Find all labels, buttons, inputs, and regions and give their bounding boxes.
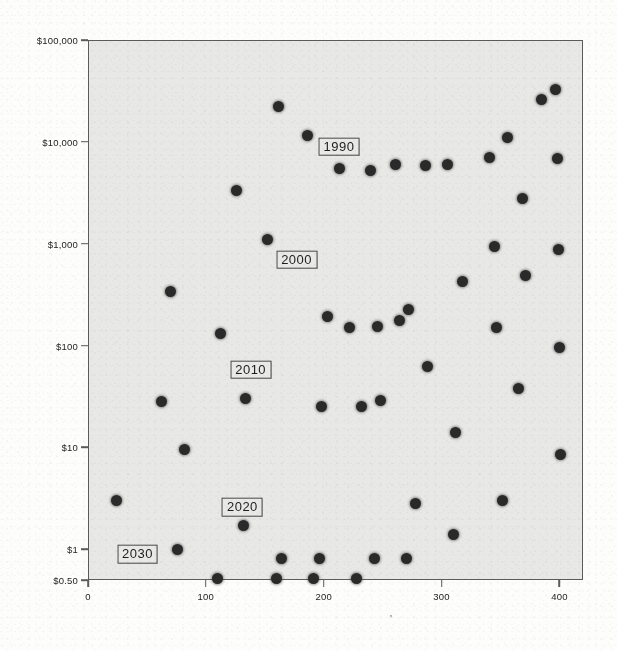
y-axis-tick-label: $0.50: [53, 575, 78, 586]
scatter-point: [457, 276, 468, 287]
y-axis-tick-label: $1,000: [48, 238, 78, 249]
x-axis-tick-label: 100: [198, 591, 214, 602]
y-axis-tick-label: $10,000: [42, 136, 78, 147]
scatter-point: [334, 163, 345, 174]
y-axis-tick-label: $10: [62, 442, 78, 453]
y-axis-tick-label: $100,000: [37, 35, 78, 46]
scatter-point: [262, 234, 273, 245]
plot-area: [88, 40, 583, 580]
x-axis-tick-label: 0: [85, 591, 90, 602]
x-axis-tick-mark: [323, 580, 325, 587]
scatter-point: [513, 383, 524, 394]
scatter-point: [322, 311, 333, 322]
scatter-point: [156, 396, 167, 407]
x-axis-tick-mark: [559, 580, 561, 587]
x-axis-tick-label: 200: [315, 591, 331, 602]
x-axis-tick-mark: [205, 580, 207, 587]
scatter-point: [442, 159, 453, 170]
y-axis-tick-mark: [81, 243, 88, 245]
scatter-point: [308, 573, 319, 584]
x-axis-tick-label: 300: [433, 591, 449, 602]
y-axis-tick-mark: [81, 447, 88, 449]
scatter-point: [520, 270, 531, 281]
scatter-point: [314, 553, 325, 564]
scatter-point: [552, 153, 563, 164]
scatter-point: [401, 553, 412, 564]
scatter-point: [394, 315, 405, 326]
scatter-point: [448, 529, 459, 540]
era-annotation-2000: 2000: [276, 250, 317, 269]
scatter-point: [276, 553, 287, 564]
scatter-point: [165, 286, 176, 297]
x-axis-tick-mark: [87, 580, 89, 587]
scatter-point: [172, 544, 183, 555]
y-axis-tick-mark: [81, 345, 88, 347]
x-axis-tick-label: 400: [551, 591, 567, 602]
y-axis-tick-label: $1: [67, 544, 78, 555]
y-axis-tick-mark: [81, 549, 88, 551]
scatter-point: [271, 573, 282, 584]
scatter-point: [420, 160, 431, 171]
scatter-point: [369, 553, 380, 564]
era-annotation-2020: 2020: [222, 498, 263, 517]
scatter-point: [111, 495, 122, 506]
scatter-point: [212, 573, 223, 584]
stray-ink-mark: ': [390, 612, 392, 624]
scatter-point: [553, 244, 564, 255]
scatter-figure: of a number ofthe price of acomputing an…: [0, 0, 617, 650]
era-annotation-2010: 2010: [230, 360, 271, 379]
scatter-point: [489, 241, 500, 252]
era-annotation-1990: 1990: [319, 137, 360, 156]
scatter-point: [302, 130, 313, 141]
scatter-point: [375, 395, 386, 406]
y-axis-tick-mark: [81, 141, 88, 143]
scatter-point: [351, 573, 362, 584]
x-axis-tick-mark: [441, 580, 443, 587]
scatter-point: [550, 84, 561, 95]
y-axis-tick-mark: [81, 39, 88, 41]
scatter-point: [215, 328, 226, 339]
y-axis-tick-label: $100: [56, 340, 78, 351]
scatter-point: [390, 159, 401, 170]
era-annotation-2030: 2030: [117, 545, 158, 564]
